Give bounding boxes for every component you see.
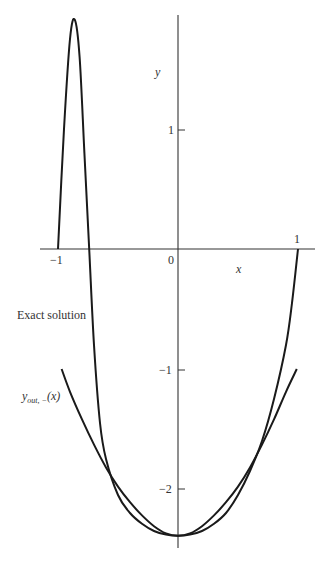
y-axis-label: y — [155, 66, 160, 78]
chart-canvas — [0, 0, 332, 561]
y-tick-label-neg2: −2 — [159, 483, 172, 495]
yout-label-subscript: out, − — [27, 396, 47, 405]
exact-solution-label: Exact solution — [17, 309, 86, 321]
yout-label-arg: (x) — [47, 389, 60, 403]
x-tick-label-neg1: −1 — [50, 254, 63, 266]
y-tick-label-neg1: −1 — [159, 364, 172, 376]
yout-label: yout, −(x) — [22, 390, 60, 405]
origin-label: 0 — [168, 254, 174, 266]
x-axis-label: x — [236, 263, 241, 275]
y-tick-label-1: 1 — [168, 124, 174, 136]
x-tick-label-1: 1 — [294, 233, 300, 245]
